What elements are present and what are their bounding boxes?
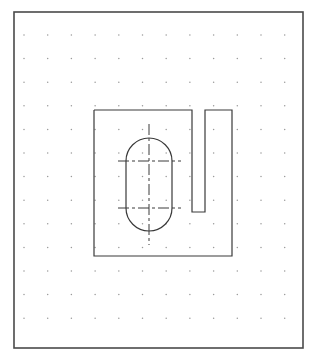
grid-dot [189,81,191,83]
grid-dot [47,58,49,60]
grid-dot [71,223,73,225]
grid-dot [118,58,120,60]
grid-dot [47,317,49,319]
grid-dot [284,270,286,272]
grid-dot [118,129,120,131]
grid-dot [189,152,191,154]
grid-dot [284,58,286,60]
grid-dot [260,317,262,319]
grid-dot [118,199,120,201]
grid-dot [118,105,120,107]
grid-dot [47,81,49,83]
grid-dot [165,129,167,131]
grid-dot [47,176,49,178]
grid-dot [23,152,25,154]
grid-dot [94,34,96,36]
grid-dot [260,34,262,36]
grid-dot [284,105,286,107]
grid-dot [165,176,167,178]
grid-dot [189,247,191,249]
grid-dot [189,270,191,272]
grid-dot [165,58,167,60]
grid-dot [118,34,120,36]
grid-dot [23,270,25,272]
grid-dot [284,247,286,249]
grid-dot [118,294,120,296]
grid-dot [260,58,262,60]
grid-dot [284,223,286,225]
grid-dot [118,81,120,83]
grid-dot [284,199,286,201]
grid-dot [237,81,239,83]
grid-dot [94,58,96,60]
grid-dot [142,247,144,249]
grid-dot [47,152,49,154]
grid-dot [142,81,144,83]
grid-dot [142,223,144,225]
drawing-surface[interactable] [0,0,318,361]
grid-dot [284,152,286,154]
grid-dot [237,176,239,178]
grid-dot [213,199,215,201]
grid-dot [47,129,49,131]
grid-dot [284,81,286,83]
grid-dot [189,199,191,201]
grid-dot [189,58,191,60]
grid-dot [237,223,239,225]
grid-dot [71,105,73,107]
grid-dot [23,294,25,296]
grid-dot [260,81,262,83]
grid-dot [47,247,49,249]
grid-dot [189,223,191,225]
grid-dot [237,199,239,201]
grid-dot [260,247,262,249]
grid-dot [165,81,167,83]
grid-dot [213,129,215,131]
cad-drawing-canvas[interactable] [0,0,318,361]
grid-dot [71,152,73,154]
grid-dot [213,105,215,107]
grid-dot [118,223,120,225]
grid-dot [260,176,262,178]
grid-dot [189,317,191,319]
grid-dot [142,317,144,319]
grid-dot [213,58,215,60]
grid-dot [47,294,49,296]
grid-dot [189,34,191,36]
grid-dot [71,34,73,36]
grid-dot [284,129,286,131]
grid-dot [237,58,239,60]
grid-dot [142,199,144,201]
grid-dot [213,247,215,249]
grid-dot [142,105,144,107]
grid-dot [94,270,96,272]
grid-dot [213,34,215,36]
grid-dot [165,247,167,249]
grid-dot [213,270,215,272]
grid-dot [213,152,215,154]
grid-dot [237,247,239,249]
grid-dot [118,247,120,249]
grid-dot [118,152,120,154]
grid-dot [71,270,73,272]
grid-dot [71,247,73,249]
grid-dot [189,176,191,178]
grid-dot [165,294,167,296]
grid-dot [165,34,167,36]
paper-background [0,0,318,361]
grid-dot [260,294,262,296]
grid-dot [213,176,215,178]
grid-dot [47,223,49,225]
grid-dot [23,129,25,131]
grid-dot [47,34,49,36]
grid-dot [71,81,73,83]
grid-dot [142,294,144,296]
grid-dot [165,152,167,154]
grid-dot [23,81,25,83]
grid-dot [71,199,73,201]
grid-dot [71,317,73,319]
grid-dot [237,270,239,272]
grid-dot [142,270,144,272]
grid-dot [23,199,25,201]
grid-dot [260,223,262,225]
